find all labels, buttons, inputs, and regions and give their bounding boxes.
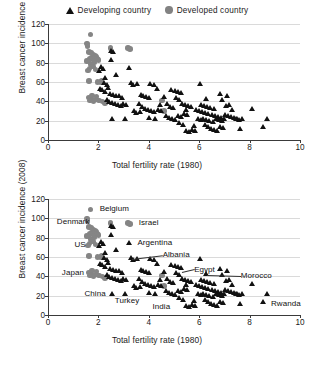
x-axis-tick-label: 8	[247, 143, 252, 152]
data-point-developing	[180, 122, 186, 127]
y-axis-tick-label: 80	[36, 233, 45, 242]
data-point-developing	[223, 278, 229, 283]
x-axis-tick-label: 6	[197, 318, 202, 327]
x-axis-tick-mark	[300, 315, 301, 318]
gridline	[48, 101, 300, 102]
y-axis-tick-label: 100	[31, 214, 45, 223]
data-point-developing	[134, 81, 140, 86]
data-point-developing	[264, 291, 270, 296]
y-axis-tick-label: 20	[36, 116, 45, 125]
data-point-developed	[88, 207, 94, 213]
data-point-developing	[109, 291, 115, 296]
data-point-developing	[131, 283, 137, 288]
data-point-developing	[237, 126, 243, 131]
legend-label-developed: Developed country	[177, 6, 249, 15]
data-point-developing	[183, 282, 189, 287]
data-point-developing	[183, 107, 189, 112]
data-point-developing	[105, 260, 111, 265]
country-label-israel: Israel	[139, 218, 159, 227]
legend-label-developing: Developing country	[78, 6, 152, 15]
data-point-developing	[192, 303, 198, 308]
country-label-albania: Albania	[163, 250, 190, 259]
data-point-developing	[239, 116, 245, 121]
x-axis-tick-label: 2	[96, 143, 101, 152]
data-point-developing	[224, 268, 230, 273]
data-point-developing	[197, 256, 203, 261]
x-axis-tick-label: 4	[147, 318, 152, 327]
data-point-developed	[86, 253, 92, 259]
y-axis-tick-label: 60	[36, 78, 45, 87]
data-point-developing	[154, 86, 160, 91]
data-point-developing	[229, 282, 235, 287]
circle-marker-icon	[165, 6, 172, 13]
plot-area-top: 0204060801001200246810	[48, 24, 300, 140]
x-axis-tick-label: 4	[147, 143, 152, 152]
data-point-developing	[219, 118, 225, 123]
data-point-developing	[119, 270, 125, 275]
chart-panel-bottom: Breast cancer incidence (2008) 020406080…	[0, 185, 314, 370]
data-point-developed	[85, 68, 91, 74]
data-point-developing	[105, 85, 111, 90]
data-point-developing	[122, 116, 128, 121]
y-axis-tick-label: 60	[36, 253, 45, 262]
data-point-developed	[88, 32, 94, 38]
data-point-developing	[192, 128, 198, 133]
data-point-developing	[237, 301, 243, 306]
data-point-developing	[126, 240, 132, 245]
data-point-developed	[85, 243, 91, 249]
y-axis-tick-label: 40	[36, 97, 45, 106]
data-point-developing	[161, 94, 167, 99]
data-point-developing	[170, 280, 176, 285]
data-point-developing	[197, 81, 203, 86]
country-label-morocco: Morocco	[241, 271, 272, 280]
data-point-developing	[219, 293, 225, 298]
chart-panel-top: Developing country Developed country Bre…	[0, 0, 314, 185]
country-label-argentina: Argentina	[137, 238, 172, 247]
data-point-developing	[217, 266, 223, 271]
gridline	[48, 199, 300, 200]
data-point-developing	[146, 270, 152, 275]
data-point-developing	[123, 102, 129, 107]
data-point-developing	[108, 232, 114, 237]
y-axis-tick-label: 120	[31, 20, 45, 29]
data-point-developing	[211, 281, 217, 286]
legend-item-developing: Developing country	[66, 6, 152, 15]
data-point-developing	[191, 298, 197, 303]
x-axis-tick-label: 2	[96, 318, 101, 327]
data-point-developed	[127, 46, 133, 52]
data-point-developing	[184, 287, 190, 292]
figure-sheet: Developing country Developed country Bre…	[0, 0, 314, 370]
data-point-developing	[224, 93, 230, 98]
data-point-developing	[131, 108, 137, 113]
y-axis-line	[48, 199, 49, 315]
gridline	[48, 24, 300, 25]
data-point-developing	[109, 116, 115, 121]
x-axis-line	[48, 315, 300, 316]
chart-legend: Developing country Developed country	[0, 2, 314, 18]
data-point-developed	[86, 78, 92, 84]
data-point-developing	[229, 107, 235, 112]
data-point-developing	[260, 124, 266, 129]
x-axis-label-bottom: Total fertility rate (1980)	[0, 335, 314, 345]
country-label-rwanda: Rwanda	[271, 299, 301, 308]
data-point-developing	[260, 299, 266, 304]
data-point-developing	[123, 277, 129, 282]
y-axis-label-bottom: Breast cancer incidence (2008)	[17, 155, 27, 283]
data-point-developing	[110, 224, 116, 229]
data-point-developing	[170, 105, 176, 110]
data-point-developing	[113, 247, 119, 252]
x-axis-tick-mark	[300, 140, 301, 143]
country-label-india: India	[153, 302, 171, 311]
plot-area-bottom: 0204060801001200246810BelgiumDenmarkIsra…	[48, 199, 300, 315]
triangle-marker-icon	[66, 7, 74, 14]
data-point-developing	[220, 125, 226, 130]
y-axis-tick-label: 40	[36, 272, 45, 281]
data-point-developing	[122, 291, 128, 296]
x-axis-tick-label: 10	[295, 318, 304, 327]
y-axis-tick-label: 100	[31, 39, 45, 48]
data-point-developing	[96, 243, 102, 248]
data-point-developing	[119, 95, 125, 100]
data-point-developing	[152, 291, 158, 296]
data-point-developing	[110, 49, 116, 54]
country-label-japan: Japan	[62, 268, 84, 277]
